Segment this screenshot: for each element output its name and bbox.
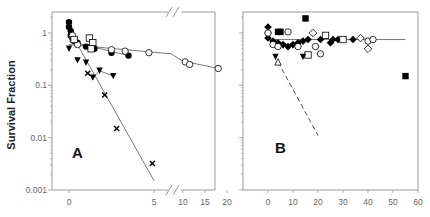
x-tick-label: 10 (178, 197, 188, 207)
survival-figure: Survival Fraction 0.0010.010.1105101520A… (0, 0, 430, 217)
series-open-triangle (275, 59, 281, 65)
panel-label-a: A (72, 144, 83, 161)
x-tick-label: 10 (288, 197, 298, 207)
x-tick-label: 20 (313, 197, 323, 207)
x-tick-label: 5 (152, 197, 157, 207)
y-tick-label: 0.1 (35, 80, 47, 90)
y-tick-label: 0.001 (26, 185, 48, 195)
x-tick-label: 40 (363, 197, 373, 207)
chart-canvas: 0.0010.010.1105101520A0102030405060B (0, 0, 430, 217)
panel-label-b: B (275, 139, 286, 156)
series-crosses (85, 71, 155, 166)
panel-b: 0102030405060B (239, 12, 423, 207)
x-tick-label: 50 (388, 197, 398, 207)
y-axis-label: Survival Fraction (3, 30, 19, 180)
series-open-squares (305, 32, 346, 58)
panel-a: 0.0010.010.1105101520A (26, 7, 232, 207)
x-tick-label: 20 (222, 197, 232, 207)
x-tick-label: 30 (338, 197, 348, 207)
x-tick-label: 0 (67, 197, 72, 207)
y-tick-label: 0.01 (30, 133, 47, 143)
y-tick-label: 1 (42, 28, 47, 38)
y-axis-label-text: Survival Fraction (5, 60, 17, 149)
x-tick-label: 60 (413, 197, 423, 207)
x-tick-label: 15 (200, 197, 210, 207)
x-tick-label: 0 (266, 197, 271, 207)
